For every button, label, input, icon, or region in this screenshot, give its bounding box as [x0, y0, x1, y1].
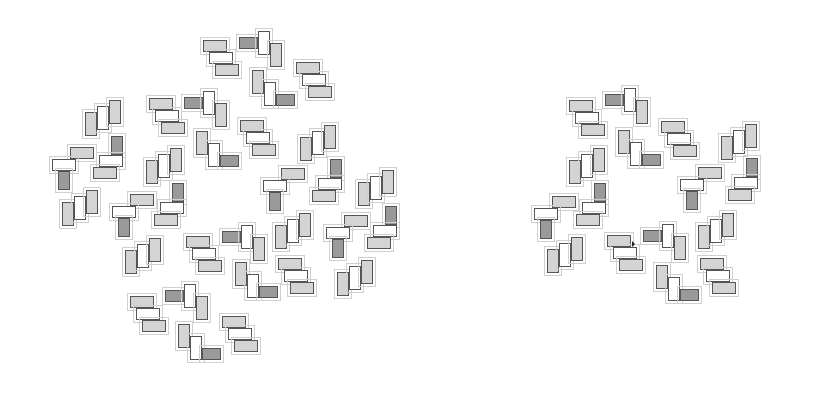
- light-bar: [252, 144, 276, 156]
- dark-bar: [118, 218, 130, 237]
- light-bar: [93, 167, 117, 179]
- light-bar: [170, 148, 182, 172]
- dark-bar: [276, 94, 295, 106]
- light-bar: [673, 145, 697, 157]
- light-bar: [571, 237, 583, 261]
- dark-bar: [269, 192, 281, 211]
- light-bar: [593, 148, 605, 172]
- right-panel: [420, 0, 814, 399]
- dark-bar: [259, 286, 278, 298]
- light-bar: [196, 296, 208, 320]
- light-bar: [382, 170, 394, 194]
- mouse-cursor-icon: [632, 241, 635, 247]
- light-bar: [299, 213, 311, 237]
- dark-bar: [332, 239, 344, 258]
- light-bar: [312, 190, 336, 202]
- light-bar: [712, 282, 736, 294]
- light-bar: [234, 340, 258, 352]
- light-bar: [367, 237, 391, 249]
- light-bar: [728, 189, 752, 201]
- light-bar: [619, 259, 643, 271]
- light-bar: [161, 122, 185, 134]
- light-bar: [198, 260, 222, 272]
- light-bar: [270, 43, 282, 67]
- dark-bar: [220, 155, 239, 167]
- light-bar: [361, 260, 373, 284]
- light-bar: [308, 86, 332, 98]
- light-bar: [86, 190, 98, 214]
- light-bar: [149, 238, 161, 262]
- light-bar: [215, 64, 239, 76]
- light-bar: [722, 213, 734, 237]
- left-panel: [0, 0, 420, 399]
- light-bar: [324, 125, 336, 149]
- light-bar: [109, 100, 121, 124]
- dark-bar: [642, 154, 661, 166]
- dark-bar: [686, 191, 698, 210]
- light-bar: [581, 124, 605, 136]
- light-bar: [745, 124, 757, 148]
- dark-bar: [540, 220, 552, 239]
- light-bar: [576, 214, 600, 226]
- dark-bar: [202, 348, 221, 360]
- dark-bar: [680, 289, 699, 301]
- light-bar: [253, 237, 265, 261]
- dark-bar: [58, 171, 70, 190]
- light-bar: [674, 236, 686, 260]
- light-bar: [142, 320, 166, 332]
- light-bar: [215, 103, 227, 127]
- light-bar: [154, 214, 178, 226]
- light-bar: [636, 100, 648, 124]
- light-bar: [290, 282, 314, 294]
